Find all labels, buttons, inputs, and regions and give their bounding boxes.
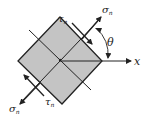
tau-n-top-label: τn bbox=[58, 13, 68, 25]
x-axis-label: x bbox=[134, 55, 141, 68]
theta-label: θ bbox=[107, 36, 114, 49]
theta-arc-arrowhead-start bbox=[95, 28, 102, 33]
sigma-n-bottom-label: σn bbox=[9, 103, 20, 115]
stress-element-diagram: σn σn τn τn θ x bbox=[0, 0, 148, 122]
sigma-n-bottom-arrow bbox=[20, 83, 40, 104]
sigma-n-top-label: σn bbox=[102, 4, 113, 16]
tau-n-bottom-label: τn bbox=[45, 96, 55, 108]
